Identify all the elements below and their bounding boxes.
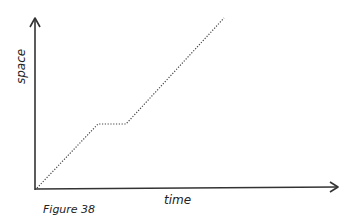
space-time-diagram: space time Figure 38 bbox=[0, 0, 361, 223]
x-axis-label: time bbox=[164, 193, 191, 207]
y-axis-label: space bbox=[14, 49, 28, 84]
x-axis bbox=[35, 187, 337, 189]
figure-caption: Figure 38 bbox=[43, 203, 95, 216]
motion-line bbox=[37, 18, 224, 188]
